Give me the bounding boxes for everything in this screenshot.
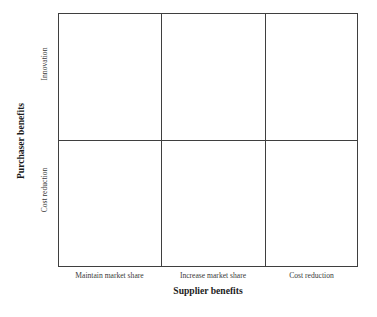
- matrix-cell-cost-reduction-maintain-market-share: [59, 141, 161, 266]
- y-axis-tick-innovation: Innovation: [39, 29, 51, 99]
- x-axis-tick-increase-market-share: Increase market share: [161, 269, 265, 283]
- matrix-cell-cost-reduction-cost-reduction: [266, 141, 357, 266]
- x-axis-title: Supplier benefits: [58, 285, 358, 296]
- y-axis-tick-cost-reduction: Cost reduction: [39, 153, 51, 227]
- matrix-cell-innovation-cost-reduction: [266, 14, 357, 140]
- matrix-cell-innovation-maintain-market-share: [59, 14, 161, 140]
- y-axis-title: Purchaser benefits: [14, 81, 28, 201]
- matrix-grid: [58, 13, 358, 267]
- x-axis-tick-maintain-market-share: Maintain market share: [58, 269, 161, 283]
- grid-divider-horizontal-1: [59, 140, 357, 141]
- benefits-matrix-figure: Purchaser benefits Innovation Cost reduc…: [0, 0, 377, 317]
- x-axis-tick-labels: Maintain market share Increase market sh…: [58, 269, 358, 283]
- matrix-cell-cost-reduction-increase-market-share: [162, 141, 265, 266]
- x-axis-tick-cost-reduction: Cost reduction: [265, 269, 358, 283]
- matrix-cell-innovation-increase-market-share: [162, 14, 265, 140]
